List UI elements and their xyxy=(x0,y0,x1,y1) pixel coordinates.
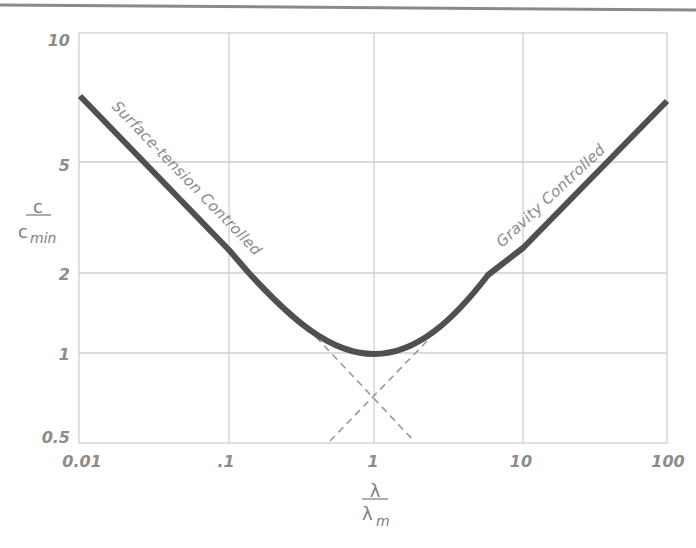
x-tick-0.01: 0.01 xyxy=(62,452,101,471)
x-label-denominator-sub: m xyxy=(376,513,390,529)
x-tick-0.1: .1 xyxy=(217,452,234,471)
y-tick-0.5: 0.5 xyxy=(42,428,70,447)
plot-frame xyxy=(79,33,667,443)
x-tick-1: 1 xyxy=(367,452,378,471)
gravity-label: Gravity Controlled xyxy=(492,141,609,251)
y-tick-2: 2 xyxy=(59,265,70,284)
x-tick-10: 10 xyxy=(510,452,532,471)
x-axis-label: λ λ m xyxy=(362,480,390,529)
x-label-numerator: λ xyxy=(370,480,381,501)
y-label-denominator: c xyxy=(18,221,28,242)
grid xyxy=(79,33,667,443)
chart: Surface-tension Controlled Gravity Contr… xyxy=(0,0,696,548)
x-label-denominator: λ xyxy=(362,503,373,524)
x-axis-ticks: 0.01 .1 1 10 100 xyxy=(62,452,684,471)
y-label-denominator-sub: min xyxy=(30,230,56,246)
y-axis-label: c c min xyxy=(18,196,56,246)
y-tick-1: 1 xyxy=(59,345,70,364)
y-tick-5: 5 xyxy=(59,156,70,175)
top-rule xyxy=(0,5,696,10)
y-tick-10: 10 xyxy=(48,31,70,50)
surface-tension-label: Surface-tension Controlled xyxy=(108,97,265,259)
x-tick-100: 100 xyxy=(651,452,684,471)
y-label-numerator: c xyxy=(33,196,43,217)
